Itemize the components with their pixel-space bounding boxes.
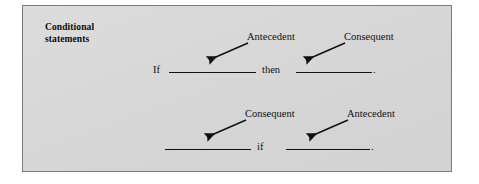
row-2-terminator: . [371,141,374,153]
row-2-label-consequent: Consequent [245,108,295,120]
row-1-arrow-antecedent [209,43,248,60]
figure-panel: Conditional statements [22,5,452,172]
row-2-middle-word: if [257,141,263,153]
row-1-label-antecedent: Antecedent [247,31,295,43]
row-1-middle-word: then [262,64,280,76]
row-1-arrow-consequent [306,43,345,60]
row-1-lead-word: If [153,64,160,76]
row-1-label-consequent: Consequent [344,31,394,43]
row-2-arrow-consequent [207,120,246,137]
row-1-terminator: . [373,64,376,76]
row-2-arrow-antecedent [309,120,348,137]
row-2-label-antecedent: Antecedent [347,108,395,120]
conditional-statements-figure: Conditional statements [0,0,479,184]
